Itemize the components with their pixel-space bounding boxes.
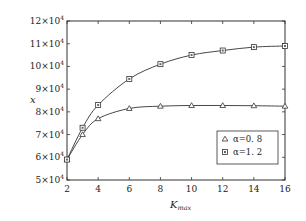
y-tick-label: 7×104 [35,128,64,140]
y-tick-label: 12×104 [30,14,64,26]
x-tick-label: 12 [217,184,228,194]
x-tick-label: 10 [186,184,198,194]
x-tick-label: 4 [95,184,101,194]
y-tick-label: 10×104 [30,59,64,71]
y-tick-label: 8×104 [35,105,64,117]
y-tick-label: 6×104 [35,150,64,162]
y-tick-label: 11×104 [30,37,64,49]
x-tick-label: 2 [64,184,70,194]
y-axis-title: x [30,94,36,105]
x-tick-label: 8 [158,184,164,194]
x-tick-label: 6 [126,184,132,194]
y-tick-label: 9×104 [35,82,64,94]
legend-label: α=1. 2 [233,147,262,157]
y-tick-label: 5×104 [35,173,64,185]
x-tick-label: 14 [248,184,260,194]
legend-label: α=0. 8 [233,134,262,144]
x-axis-title: Kmax [169,199,192,212]
legend: α=0. 8α=1. 2 [217,131,278,164]
x-tick-label: 16 [279,184,291,194]
line-chart: 5×1046×1047×1048×1049×10410×10411×10412×… [0,0,306,221]
